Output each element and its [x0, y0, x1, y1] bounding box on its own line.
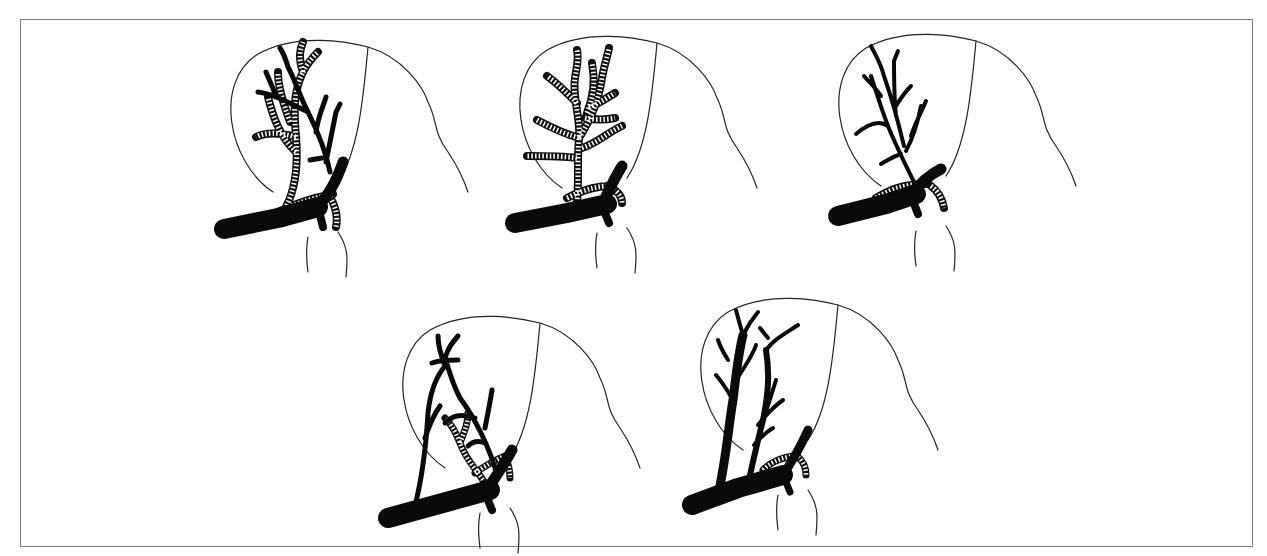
panel-1	[224, 40, 468, 277]
panel-2	[515, 36, 757, 273]
panel-4	[388, 316, 640, 553]
panel-5	[692, 298, 938, 535]
organ-outline	[701, 298, 938, 535]
organ-outline	[839, 34, 1076, 271]
hatched-vessel-tree	[527, 48, 622, 203]
panel-3	[838, 34, 1076, 271]
vascular-diagram	[0, 0, 1267, 556]
